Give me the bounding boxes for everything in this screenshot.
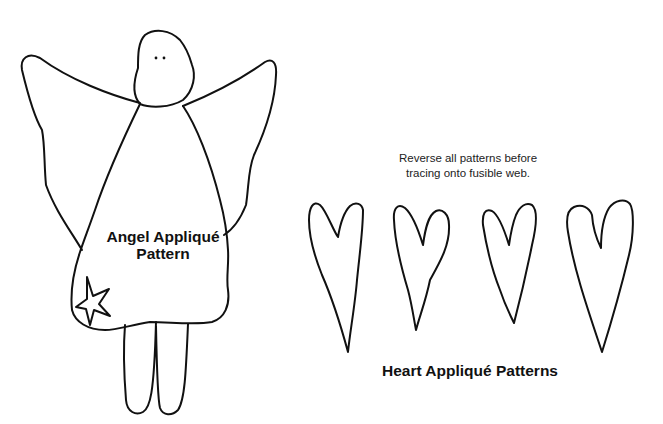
heart-patterns (309, 201, 633, 352)
angel-eye-left (155, 57, 158, 60)
angel-label-line2: Pattern (88, 245, 238, 262)
angel-eye-right (163, 57, 166, 60)
angel-label-line1: Angel Appliqué (88, 228, 238, 245)
heart-patterns-label: Heart Appliqué Patterns (360, 362, 580, 380)
star-icon (76, 277, 110, 325)
angel-pattern (22, 31, 276, 414)
instructions-line2: tracing onto fusible web. (348, 166, 588, 181)
angel-pattern-label: Angel Appliqué Pattern (88, 228, 238, 262)
pattern-artwork (0, 0, 663, 424)
instructions-note: Reverse all patterns before tracing onto… (348, 151, 588, 181)
angel-head (135, 31, 194, 107)
heart-pattern-1 (309, 203, 363, 352)
angel-left-wing (22, 56, 140, 250)
heart-pattern-3 (483, 204, 536, 323)
heart-pattern-2 (394, 206, 449, 330)
instructions-line1: Reverse all patterns before (348, 151, 588, 166)
angel-legs (124, 322, 188, 414)
angel-right-wing (183, 61, 276, 235)
heart-pattern-4 (567, 201, 633, 352)
